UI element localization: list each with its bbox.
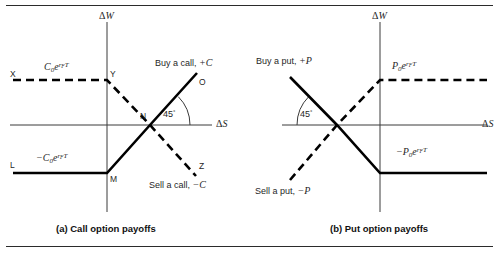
panel-b-upper-payoff-value: P0erFT	[392, 61, 416, 73]
panel-a-buy-call-label: Buy a call, +C	[155, 58, 212, 68]
panel-b-y-axis-label: ΔW	[372, 11, 387, 21]
panel-a-point-z: Z	[199, 162, 204, 171]
panel-b-caption: (b) Put option payoffs	[330, 224, 428, 234]
panel-b-axes	[282, 22, 487, 212]
panel-b-sell-put-curve	[290, 80, 487, 180]
panel-a-point-l: L	[10, 161, 15, 170]
panel-b-x-axis-label: ΔS	[482, 119, 493, 129]
panel-b-lower-payoff-value: −P0erFT	[396, 147, 427, 159]
panel-a-angle-arc	[178, 97, 190, 125]
panel-a-point-x: X	[10, 70, 16, 79]
panel-a-y-axis-label: ΔW	[99, 11, 114, 21]
panel-a-point-n: N	[140, 112, 146, 121]
panel-a-caption: (a) Call option payoffs	[56, 224, 156, 234]
panel-b-sell-put-label: Sell a put, −P	[255, 186, 310, 196]
panel-a-sell-call-label: Sell a call, −C	[149, 180, 206, 190]
panel-a-x-axis-label: ΔS	[216, 119, 227, 129]
panel-a-point-y: Y	[110, 70, 116, 79]
panel-a-point-m: M	[110, 175, 117, 184]
panel-a-point-o: O	[199, 78, 206, 87]
payoff-diagram-svg	[0, 0, 499, 256]
panel-a-lower-payoff-value: −C0erFT	[36, 153, 67, 165]
panel-a-upper-payoff-value: C0erFT	[44, 62, 69, 74]
panel-a-angle-label: 45°	[163, 109, 175, 119]
panel-b-buy-put-label: Buy a put, +P	[256, 56, 312, 66]
option-payoff-figure: ΔW ΔS X Y L M N O Z C0erFT −C0erFT Buy a…	[0, 0, 499, 256]
panel-b-angle-label: 45°	[300, 109, 312, 119]
